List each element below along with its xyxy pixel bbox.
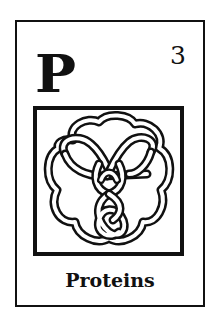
card-caption: Proteins [17, 269, 203, 291]
card-number: 3 [170, 43, 186, 68]
element-card: P 3 [15, 20, 205, 307]
illustration-frame [33, 106, 184, 256]
card-symbol: P [35, 48, 76, 100]
celtic-knot-icon [37, 110, 180, 252]
